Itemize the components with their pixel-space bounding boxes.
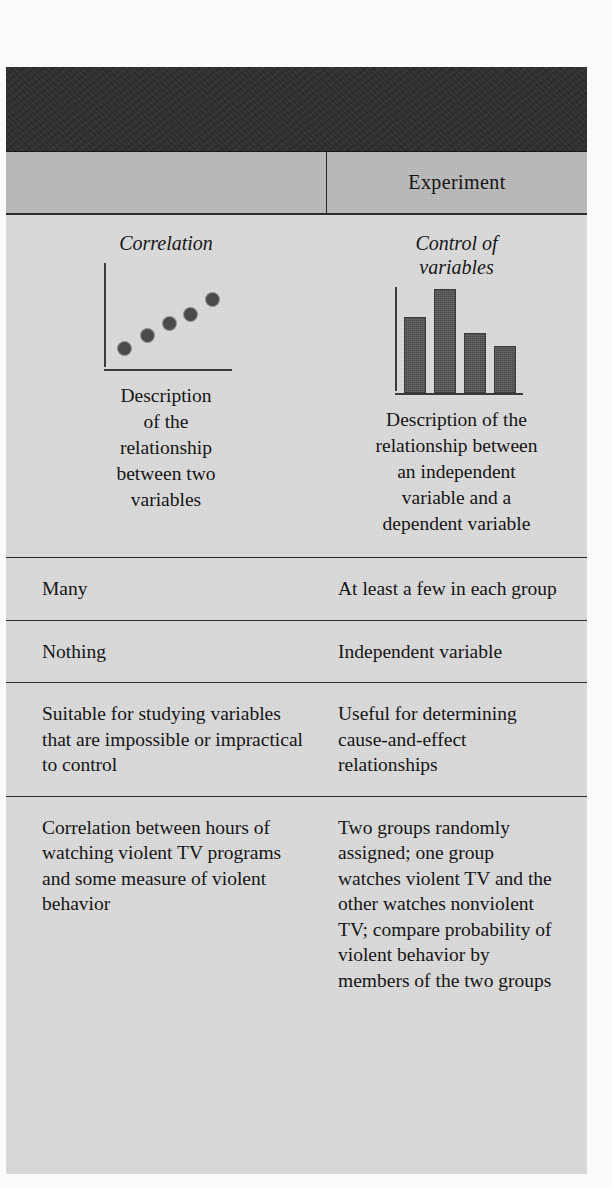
- cell-advantages-experiment: Useful for determining cause-and-effect …: [326, 683, 587, 796]
- cell-example-experiment: Two groups randomly assigned; one group …: [326, 797, 587, 1012]
- table-row: Suitable for studying variables that are…: [6, 682, 587, 796]
- table-header-row: Experiment: [6, 152, 587, 215]
- correlation-description: Description of the relationship between …: [116, 383, 215, 513]
- scatter-point: [163, 317, 176, 330]
- table-top-band: [6, 67, 587, 152]
- table-row: Correlation between hours of watching vi…: [6, 796, 587, 1012]
- scatter-plot-icon: [96, 263, 236, 371]
- page-background: Experiment Correlation: [0, 0, 612, 1188]
- cell-correlation-illustration: Correlation Description of the relations…: [6, 215, 326, 557]
- control-of-variables-figure-caption: Control of variables: [415, 231, 497, 279]
- table-body: Correlation Description of the relations…: [6, 215, 587, 1174]
- bar: [464, 333, 486, 393]
- scatter-point: [141, 329, 154, 342]
- cell-text: Many: [42, 576, 312, 602]
- table-row: Many At least a few in each group: [6, 557, 587, 620]
- table-row-illustrations: Correlation Description of the relations…: [6, 215, 587, 557]
- scatter-point: [206, 293, 219, 306]
- cell-advantages-correlation: Suitable for studying variables that are…: [6, 683, 326, 796]
- bar: [404, 317, 426, 393]
- bar-y-axis: [395, 287, 397, 391]
- cell-participants-experiment: At least a few in each group: [326, 558, 587, 620]
- bar-chart-icon: [387, 287, 527, 395]
- cell-text: Nothing: [42, 639, 312, 665]
- table-row: Nothing Independent variable: [6, 620, 587, 683]
- scatter-point: [184, 308, 197, 321]
- scatter-y-axis: [104, 263, 106, 367]
- cell-text: Useful for determining cause-and-effect …: [338, 701, 557, 778]
- cell-text: Suitable for studying variables that are…: [42, 701, 312, 778]
- cell-text: Correlation between hours of watching vi…: [42, 815, 312, 917]
- column-header-correlation: [6, 152, 326, 213]
- bar-x-axis: [395, 393, 523, 395]
- cell-example-correlation: Correlation between hours of watching vi…: [6, 797, 326, 1012]
- cell-text: At least a few in each group: [338, 576, 557, 602]
- bar: [434, 289, 456, 393]
- experiment-description: Description of the relationship between …: [376, 407, 538, 537]
- comparison-table: Experiment Correlation: [6, 67, 587, 1172]
- cell-participants-correlation: Many: [6, 558, 326, 620]
- scatter-point: [118, 342, 131, 355]
- bar: [494, 346, 516, 393]
- cell-text: Two groups randomly assigned; one group …: [338, 815, 557, 994]
- scatter-x-axis: [104, 369, 232, 371]
- cell-text: Independent variable: [338, 639, 557, 665]
- cell-manipulation-experiment: Independent variable: [326, 621, 587, 683]
- column-header-experiment: Experiment: [326, 152, 587, 213]
- cell-experiment-illustration: Control of variables Description of the …: [326, 215, 587, 557]
- correlation-figure-caption: Correlation: [119, 231, 213, 255]
- cell-manipulation-correlation: Nothing: [6, 621, 326, 683]
